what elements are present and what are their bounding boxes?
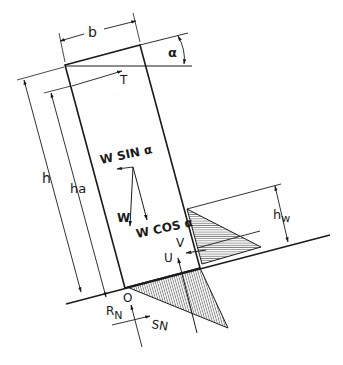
weight-cos-arrow — [133, 167, 147, 220]
normal-reaction-arrow — [131, 305, 142, 347]
origin-label: O — [123, 291, 132, 305]
weight-label: W — [117, 211, 130, 225]
angle-arc — [178, 36, 184, 64]
inclined-block — [65, 45, 200, 288]
height-label: h — [42, 170, 51, 186]
normal-reaction-label: RN — [106, 304, 123, 322]
top-face-extension — [140, 33, 188, 45]
hw-extension-top — [187, 184, 281, 209]
ha-extension-top — [44, 86, 71, 93]
weight-sin-arrow — [117, 167, 133, 169]
tension-arrow — [72, 71, 122, 86]
horizontal-water-force-label: V — [176, 236, 185, 250]
b-dimension-line-left — [60, 34, 84, 41]
water-affected-height-label: ha — [70, 181, 86, 196]
weight-cos-label: W COS α — [135, 215, 194, 241]
b-extension-right — [133, 13, 140, 42]
h-extension-top — [17, 67, 64, 80]
tension-label: T — [119, 73, 128, 87]
weight-sin-label: W SIN α — [99, 142, 154, 167]
uplift-label: U — [164, 251, 173, 265]
shear-force-label: SN — [150, 317, 169, 334]
water-height-label: hw — [273, 207, 290, 225]
uplift-pressure-triangle — [127, 268, 228, 328]
b-extension-left — [59, 33, 65, 62]
width-label: b — [88, 24, 97, 40]
weight-arrow — [130, 167, 133, 226]
free-body-diagram: α b T h ha W SIN α W W COS α hw V U O RN… — [0, 0, 343, 365]
angle-label: α — [168, 45, 177, 60]
b-dimension-line-right — [104, 21, 136, 29]
